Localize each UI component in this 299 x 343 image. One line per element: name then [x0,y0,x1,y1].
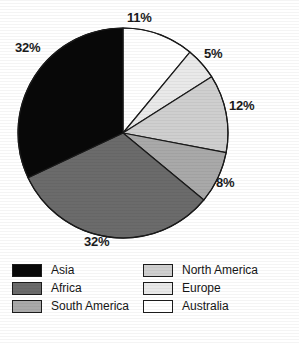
legend-item-europe[interactable]: Europe [143,279,288,297]
slice-value-label-north-america: 12% [229,99,254,112]
pie-slice-group [18,28,228,238]
legend-item-asia[interactable]: Asia [12,261,143,279]
legend-label-asia: Asia [51,264,74,276]
slice-value-label-south-america: 8% [216,176,234,189]
legend-label-africa: Africa [51,282,82,294]
legend-swatch-north-america [143,264,173,277]
legend-swatch-south-america [12,300,42,313]
legend-label-south-america: South America [51,300,129,312]
legend-swatch-africa [12,282,42,295]
legend-swatch-asia [12,264,42,277]
slice-value-label-africa: 32% [84,235,109,248]
pie-chart-plot-area: 11% 5% 12% 8% 32% 32% [0,0,299,255]
legend-item-australia[interactable]: Australia [143,297,288,315]
legend-label-north-america: North America [182,264,258,276]
pie-chart-svg [0,0,299,255]
legend-swatch-europe [143,282,173,295]
legend-item-africa[interactable]: Africa [12,279,143,297]
slice-value-label-australia: 11% [127,11,152,24]
legend-label-australia: Australia [182,300,229,312]
chart-legend: Asia North America Africa Europe South A… [12,261,288,323]
slice-value-label-europe: 5% [204,47,222,60]
legend-item-north-america[interactable]: North America [143,261,288,279]
legend-swatch-australia [143,300,173,313]
legend-label-europe: Europe [182,282,221,294]
pie-chart-figure: 11% 5% 12% 8% 32% 32% Asia North America… [0,0,299,343]
slice-value-label-asia: 32% [15,41,40,54]
legend-item-south-america[interactable]: South America [12,297,143,315]
